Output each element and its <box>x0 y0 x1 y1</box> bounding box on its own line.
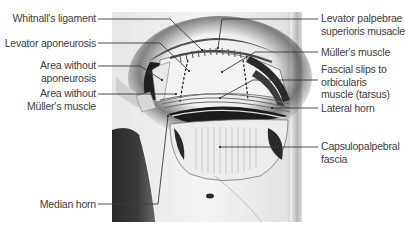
label-levator-palpebrae-superioris: Levator palpebrae superioris musacle <box>321 12 405 37</box>
label-text: Lateral horn <box>321 102 375 115</box>
label-levator-aponeurosis: Levator aponeurosis <box>5 37 96 50</box>
label-text: Median horn <box>40 198 96 211</box>
label-text: Levator aponeurosis <box>5 37 96 50</box>
label-whitnalls-ligament: Whitnall's ligament <box>13 12 96 25</box>
label-area-without-mullers-muscle: Area without Müller's muscle <box>27 87 96 112</box>
label-capsulopalpebral-fascia: Capsulopalpebral fascia <box>321 140 400 165</box>
label-text: Müller's muscle <box>321 46 390 59</box>
label-text: Fascial slips to <box>321 63 390 76</box>
label-text: Area without <box>40 59 96 72</box>
label-text: Whitnall's ligament <box>13 12 96 25</box>
label-text: Capsulopalpebral <box>321 140 400 153</box>
label-text: orbicularis <box>321 76 390 89</box>
label-text: fascia <box>321 153 400 166</box>
label-text: muscle (tarsus) <box>321 88 390 101</box>
label-text: Area without <box>27 87 96 100</box>
label-text: Müller's muscle <box>27 100 96 113</box>
label-text: superioris musacle <box>321 25 405 38</box>
label-text: aponeurosis <box>40 72 96 85</box>
label-lateral-horn: Lateral horn <box>321 102 375 115</box>
label-text: Levator palpebrae <box>321 12 405 25</box>
label-area-without-aponeurosis: Area without aponeurosis <box>40 59 96 84</box>
label-mullers-muscle: Müller's muscle <box>321 46 390 59</box>
label-fascial-slips: Fascial slips to orbicularis muscle (tar… <box>321 63 390 101</box>
label-median-horn: Median horn <box>40 198 96 211</box>
